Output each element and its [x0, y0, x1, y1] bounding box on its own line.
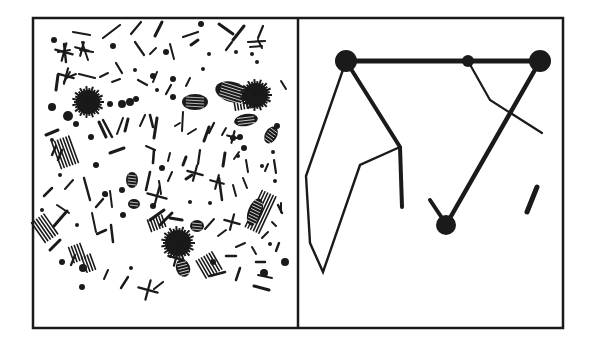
particle-dot	[58, 173, 62, 177]
particle-dot	[79, 284, 85, 290]
particle-dot	[255, 60, 259, 64]
particle-stroke	[182, 112, 183, 131]
particle-dot	[126, 98, 134, 106]
particle-dot	[150, 203, 156, 209]
particle-dot	[281, 258, 289, 266]
particle-dot	[50, 138, 54, 142]
particle-dot	[118, 100, 126, 108]
particle-stroke	[170, 218, 182, 220]
particle-dot	[198, 21, 204, 27]
particle-dot	[159, 165, 165, 171]
particle-dot	[133, 96, 139, 102]
particle-dot	[260, 164, 264, 168]
particle-dot	[170, 76, 176, 82]
particle-dot	[104, 193, 108, 197]
particle-stroke	[248, 41, 265, 42]
hatched-oval	[126, 172, 138, 188]
particle-dot	[163, 49, 169, 55]
node-C	[462, 55, 474, 67]
particle-dot	[250, 52, 254, 56]
particle-dot	[119, 187, 125, 193]
particle-dot	[273, 179, 277, 183]
particle-dot	[188, 200, 192, 204]
particle-stroke	[223, 153, 225, 166]
particle-dot	[129, 266, 133, 270]
particle-dot	[271, 150, 275, 154]
particle-dot	[40, 208, 44, 212]
particle-dot	[155, 88, 159, 92]
particle-dot	[48, 103, 56, 111]
particle-dot	[201, 67, 205, 71]
hatched-oval	[128, 199, 140, 209]
particle-dot	[107, 101, 113, 107]
particle-dot	[208, 201, 212, 205]
particle-stroke	[56, 75, 58, 90]
particle-dot	[207, 52, 211, 56]
particle-dot	[150, 73, 156, 79]
particle-dot	[170, 94, 176, 100]
particle-dot	[260, 269, 268, 277]
particle-dot	[234, 50, 238, 54]
particle-dot	[230, 135, 236, 141]
particle-dot	[120, 212, 126, 218]
particle-dot	[133, 68, 137, 72]
figure-canvas	[0, 0, 593, 346]
node-A	[335, 50, 357, 72]
particle-dot	[268, 242, 272, 246]
particle-dot	[73, 121, 79, 127]
particle-dot	[237, 134, 243, 140]
particle-dot	[241, 145, 247, 151]
particle-dot	[59, 259, 65, 265]
particle-dot	[210, 259, 216, 265]
hatched-oval	[182, 94, 208, 110]
particle-dot	[75, 223, 79, 227]
particle-dot	[236, 154, 240, 158]
particle-dot	[63, 111, 73, 121]
particle-dot	[274, 123, 280, 129]
node-D	[436, 215, 456, 235]
particle-dot	[110, 43, 116, 49]
particle-dot	[93, 162, 99, 168]
node-B	[529, 50, 551, 72]
particle-dot	[51, 37, 57, 43]
particle-dot	[79, 264, 87, 272]
particle-dot	[88, 134, 94, 140]
particle-stroke	[153, 150, 154, 163]
hatched-oval	[190, 220, 204, 232]
